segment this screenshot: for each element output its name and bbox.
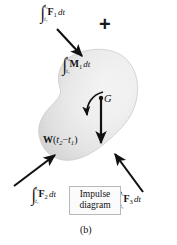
center-of-mass-label: G [104, 94, 112, 105]
force-1-arrow-icon [57, 29, 82, 56]
force-1-impulse-label: ∫ t₂ t₁ F1dt [40, 4, 65, 22]
integral-body: F2dt [38, 189, 55, 200]
moment-1-subscript: 1 [79, 63, 82, 70]
force-2-subscript: 2 [45, 193, 48, 200]
impulse-box-line-1: Impulse [71, 189, 119, 200]
impulse-diagram-box: Impulse diagram [69, 186, 121, 215]
integral-sign-icon: ∫ [31, 187, 35, 202]
moment-1-impulse-label: ∫ t₂ t₁ M1dt [62, 56, 90, 74]
force-2-arrow-icon [14, 155, 55, 186]
impulse-diagram-figure: ∫ t₂ t₁ F1dt + ∫ t₂ t₁ M1dt G W(t2−t1) ∫ [0, 0, 177, 245]
impulse-box-line-2: diagram [71, 200, 119, 211]
weight-paren-close: ) [74, 134, 77, 145]
integral-body: M1dt [69, 59, 90, 70]
weight-impulse-label: W(t2−t1) [43, 135, 77, 146]
force-2-differential: dt [49, 189, 56, 199]
force-1-differential: dt [58, 7, 65, 17]
moment-1-symbol: M [69, 58, 78, 69]
force-3-differential: dt [134, 194, 141, 204]
integral-sign-icon: ∫ [62, 57, 66, 72]
force-2-impulse-label: ∫ t₂ t₁ F2dt [31, 186, 56, 204]
integral-sign-icon: ∫ [40, 5, 44, 20]
moment-1-differential: dt [83, 59, 90, 69]
integral-body: F3dt [123, 194, 140, 205]
force-3-subscript: 3 [130, 198, 133, 205]
plus-operator: + [99, 14, 111, 34]
weight-symbol: W [43, 134, 53, 145]
force-1-subscript: 1 [54, 11, 57, 18]
figure-caption: (b) [80, 225, 92, 235]
integral-body: F1dt [47, 7, 64, 18]
